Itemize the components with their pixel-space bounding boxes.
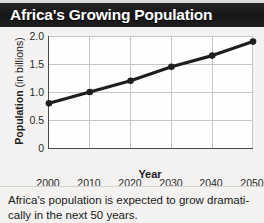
data-point-marker xyxy=(87,89,94,96)
y-tick-label: 1.5 xyxy=(0,59,44,69)
x-axis-title: Year xyxy=(48,168,252,180)
title-bar: Africa's Growing Population xyxy=(0,3,264,27)
chart-area: Population (in billions) 2.0 1.5 1.0 0.5… xyxy=(0,27,264,185)
data-point-marker xyxy=(209,52,216,59)
plot-box xyxy=(48,36,253,149)
y-tick-label: 2.0 xyxy=(0,31,44,41)
data-series-line xyxy=(49,36,253,148)
y-tick-label: 1.0 xyxy=(0,87,44,97)
caption-line-2: cally in the next 50 years. xyxy=(8,208,260,223)
caption-divider xyxy=(0,186,264,187)
data-point-marker xyxy=(127,78,134,85)
y-tick-labels: 2.0 1.5 1.0 0.5 0 xyxy=(0,27,44,158)
page-title: Africa's Growing Population xyxy=(10,5,212,25)
caption-line-1: Africa's population is expected to grow … xyxy=(8,194,249,206)
data-point-marker xyxy=(168,64,175,71)
figure-caption: Africa's population is expected to grow … xyxy=(8,193,260,222)
y-tick-label: 0 xyxy=(0,143,44,153)
y-tick-label: 0.5 xyxy=(0,115,44,125)
data-point-marker xyxy=(46,100,53,107)
data-point-marker xyxy=(250,38,257,45)
chart-figure: Africa's Growing Population Population (… xyxy=(0,0,264,222)
